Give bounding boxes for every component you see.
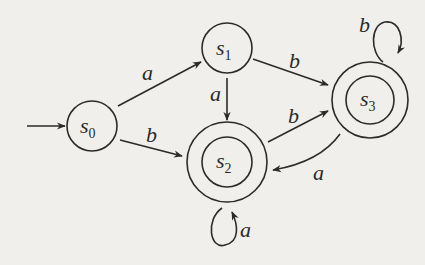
state-s2: s2 [187, 122, 267, 202]
edge-label-s1-s2: a [210, 81, 221, 106]
edge-s0-s1 [118, 62, 201, 106]
state-label: s2 [216, 148, 232, 176]
fsa-diagram: s0 s1 s2 s3 a b a b b a a b [0, 0, 425, 265]
state-s1: s1 [202, 23, 252, 73]
state-s0: s0 [67, 101, 117, 151]
edge-s2-self-loop [211, 208, 236, 246]
edge-s3-self-loop [373, 22, 401, 62]
edge-label-s0-s1: a [142, 60, 153, 85]
edge-s3-s2 [273, 134, 340, 170]
state-label: s3 [360, 86, 376, 114]
state-s3: s3 [332, 62, 408, 138]
state-label: s0 [80, 113, 96, 141]
edge-label-s3-s2: a [313, 160, 324, 185]
diagram-canvas: s0 s1 s2 s3 a b a b b a a b [0, 0, 425, 265]
edge-label-s0-s2: b [146, 122, 157, 147]
edge-label-s2-s3: b [288, 103, 299, 128]
edge-label-s2-self: a [240, 217, 251, 242]
edge-label-s3-self: b [359, 12, 370, 37]
edge-label-s1-s3: b [289, 48, 300, 73]
state-label: s1 [216, 35, 232, 63]
